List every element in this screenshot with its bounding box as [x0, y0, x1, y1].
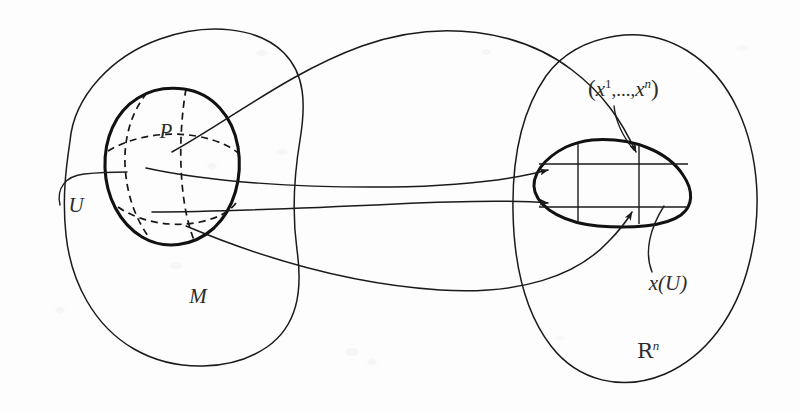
chart-image-label: x(U)	[648, 271, 687, 295]
figure-canvas: M U P x(U) Rn (x1,...,xn)	[0, 0, 800, 413]
label-leader-lines	[59, 106, 664, 272]
coord-open-paren: (	[588, 76, 596, 101]
map-curve-upper	[146, 168, 548, 187]
leader-chart-image	[648, 206, 664, 272]
patch-label: U	[68, 193, 85, 217]
euclidean-space-exponent: n	[653, 338, 660, 353]
coord-dots: ,...,	[612, 79, 636, 100]
patch-grid-dashed-v2	[181, 89, 194, 240]
point-label: P	[159, 119, 173, 143]
mapping-curves	[146, 31, 636, 291]
manifold-label: M	[188, 284, 208, 308]
map-curve-middle	[152, 201, 548, 212]
chart-image-boundary	[534, 140, 691, 227]
coord-close-paren: )	[651, 76, 659, 101]
patch-grid-dashed-v1	[125, 93, 148, 236]
map-curve-bottom	[186, 212, 632, 291]
coordinate-tuple-label: (x1,...,xn)	[588, 76, 659, 101]
euclidean-space-label: Rn	[637, 338, 659, 363]
patch-coordinate-grid	[108, 89, 239, 240]
map-curve-top	[172, 31, 636, 152]
manifold-chart-figure: M U P x(U) Rn (x1,...,xn)	[0, 0, 800, 413]
euclidean-space-base: R	[637, 339, 654, 363]
